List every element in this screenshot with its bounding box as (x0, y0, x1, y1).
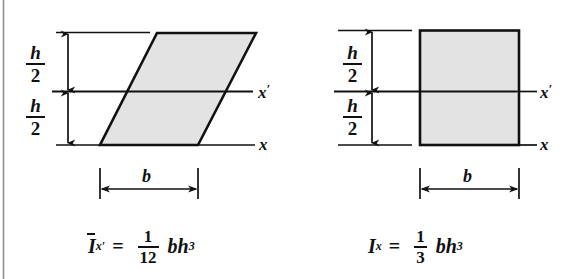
figure-rectangle (334, 31, 537, 200)
dimension-label-lower-half-right: h 2 (343, 96, 362, 138)
h-denominator: 2 (31, 118, 41, 138)
fraction-numerator: 1 (414, 228, 427, 246)
width-label-left: b (142, 166, 151, 187)
figure-plate: h 2 h 2 x′ x b h 2 h 2 x′ x b Ix′ = 1 12 (0, 0, 576, 279)
coefficient-fraction: 1 12 (138, 228, 159, 266)
h-numerator: h (30, 96, 41, 116)
axis-label-x-prime-left: x′ (258, 81, 270, 103)
dimension-label-lower-half-left: h 2 (26, 96, 45, 138)
bh-term: bh (168, 235, 189, 258)
dimension-label-upper-half-right: h 2 (343, 43, 362, 85)
formula-rectangle: Ix = 1 3 bh3 (368, 228, 463, 266)
h-numerator: h (30, 43, 41, 63)
figure-parallelogram (52, 33, 256, 200)
diagram-canvas (0, 0, 576, 279)
h-denominator: 2 (31, 65, 41, 85)
parallelogram-shape (100, 33, 256, 145)
h-denominator: 2 (348, 118, 358, 138)
exponent: 3 (457, 239, 463, 254)
bh-term: bh (436, 235, 457, 258)
inertia-subscript: x (376, 239, 382, 254)
equals-sign: = (389, 235, 400, 258)
h-numerator: h (347, 96, 358, 116)
coefficient-fraction: 1 3 (414, 228, 427, 266)
equals-sign: = (112, 235, 123, 258)
axis-letter: x (540, 83, 549, 102)
width-label-right: b (463, 166, 472, 187)
formula-parallelogram: Ix′ = 1 12 bh3 (88, 228, 195, 266)
axis-label-x-right: x (540, 135, 549, 155)
inertia-symbol: I (88, 235, 96, 258)
exponent: 3 (189, 239, 195, 254)
fraction-denominator: 3 (414, 248, 427, 266)
inertia-symbol: I (368, 235, 376, 258)
axis-label-x-prime-right: x′ (540, 81, 552, 103)
fraction-numerator: 1 (142, 228, 155, 246)
rectangle-shape (420, 31, 519, 146)
h-denominator: 2 (348, 65, 358, 85)
fraction-denominator: 12 (138, 248, 159, 266)
inertia-subscript: x′ (96, 239, 105, 254)
axis-letter: x (258, 83, 267, 102)
dimension-label-upper-half-left: h 2 (26, 43, 45, 85)
h-numerator: h (347, 43, 358, 63)
axis-label-x-left: x (259, 135, 268, 155)
